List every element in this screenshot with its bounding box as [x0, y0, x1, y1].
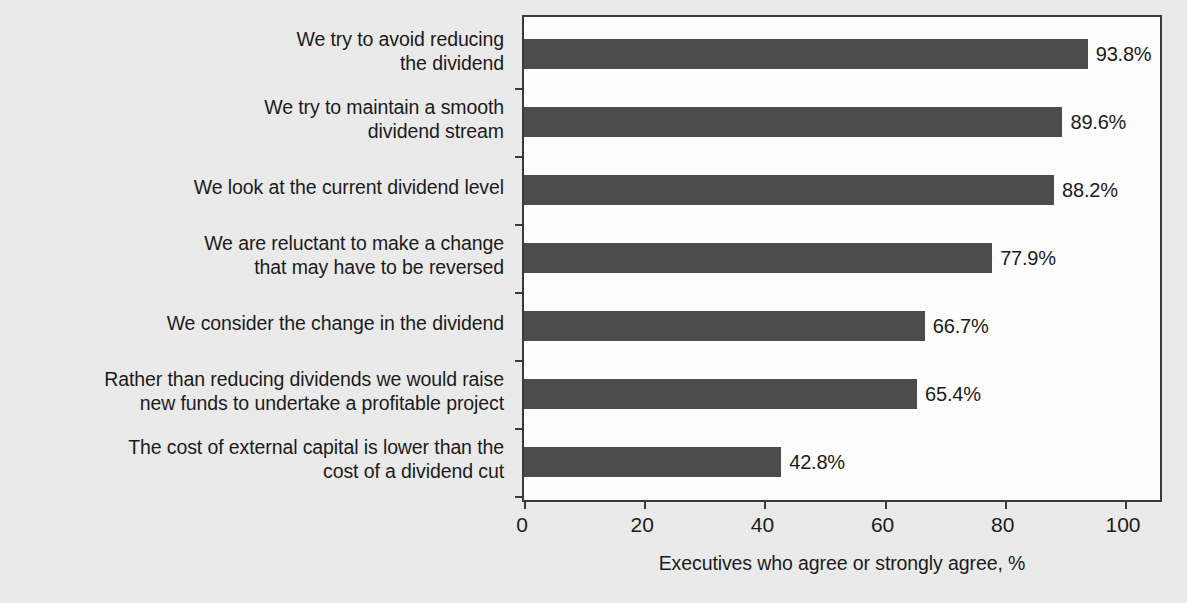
bar-value-6: 42.8%	[789, 447, 845, 477]
bar-5[interactable]	[524, 379, 917, 409]
category-label-5-line-1: new funds to undertake a profitable proj…	[4, 391, 504, 415]
category-label-4-line-0: We consider the change in the dividend	[4, 311, 504, 335]
y-axis-tick-3	[515, 224, 524, 226]
category-label-0: We try to avoid reducing the dividend	[4, 27, 504, 75]
x-axis-tick-label-40: 40	[751, 512, 774, 538]
category-axis-labels: We try to avoid reducing the dividend We…	[0, 15, 512, 502]
category-label-0-line-0: We try to avoid reducing	[4, 27, 504, 51]
x-axis-tick-80	[1005, 500, 1007, 509]
bar-value-2: 88.2%	[1062, 175, 1118, 205]
x-axis-tick-label-0: 0	[516, 512, 528, 538]
x-axis-tick-100	[1125, 500, 1127, 509]
x-axis-title: Executives who agree or strongly agree, …	[522, 552, 1162, 575]
y-axis-tick-5	[515, 360, 524, 362]
y-axis-tick-1	[515, 88, 524, 90]
category-label-1-line-1: dividend stream	[4, 119, 504, 143]
bar-value-0: 93.8%	[1096, 39, 1152, 69]
bar-value-5: 65.4%	[925, 379, 981, 409]
bar-1[interactable]	[524, 107, 1062, 137]
y-axis-tick-2	[515, 156, 524, 158]
x-axis-tick-label-20: 20	[631, 512, 654, 538]
bar-6[interactable]	[524, 447, 781, 477]
x-axis-tick-0	[524, 500, 526, 509]
category-label-6: The cost of external capital is lower th…	[4, 435, 504, 483]
y-axis-tick-6	[515, 428, 524, 430]
chart-page: We try to avoid reducing the dividend We…	[0, 0, 1187, 603]
bar-3[interactable]	[524, 243, 992, 273]
x-axis-tick-40	[764, 500, 766, 509]
category-label-4: We consider the change in the dividend	[4, 311, 504, 335]
plot-area: 93.8% 89.6% 88.2% 77.9% 66.7% 65.4% 42.8…	[522, 15, 1162, 502]
category-label-3-line-1: that may have to be reversed	[4, 255, 504, 279]
category-label-5: Rather than reducing dividends we would …	[4, 367, 504, 415]
category-label-6-line-0: The cost of external capital is lower th…	[4, 435, 504, 459]
x-axis-tick-20	[644, 500, 646, 509]
category-label-2-line-0: We look at the current dividend level	[4, 175, 504, 199]
category-label-1: We try to maintain a smooth dividend str…	[4, 95, 504, 143]
category-label-1-line-0: We try to maintain a smooth	[4, 95, 504, 119]
bars-layer: 93.8% 89.6% 88.2% 77.9% 66.7% 65.4% 42.8…	[524, 17, 1160, 500]
y-axis-tick-7	[515, 496, 524, 498]
bar-0[interactable]	[524, 39, 1088, 69]
category-label-2: We look at the current dividend level	[4, 175, 504, 199]
category-label-6-line-1: cost of a dividend cut	[4, 459, 504, 483]
x-axis-tick-60	[885, 500, 887, 509]
bar-4[interactable]	[524, 311, 925, 341]
bar-2[interactable]	[524, 175, 1054, 205]
bar-value-3: 77.9%	[1000, 243, 1056, 273]
x-axis-tick-label-60: 60	[871, 512, 894, 538]
category-label-0-line-1: the dividend	[4, 51, 504, 75]
bar-value-4: 66.7%	[933, 311, 989, 341]
category-label-3-line-0: We are reluctant to make a change	[4, 231, 504, 255]
x-axis-tick-label-80: 80	[991, 512, 1014, 538]
y-axis-tick-4	[515, 292, 524, 294]
category-label-5-line-0: Rather than reducing dividends we would …	[4, 367, 504, 391]
category-label-3: We are reluctant to make a change that m…	[4, 231, 504, 279]
bar-value-1: 89.6%	[1070, 107, 1126, 137]
x-axis-tick-label-100: 100	[1105, 512, 1140, 538]
